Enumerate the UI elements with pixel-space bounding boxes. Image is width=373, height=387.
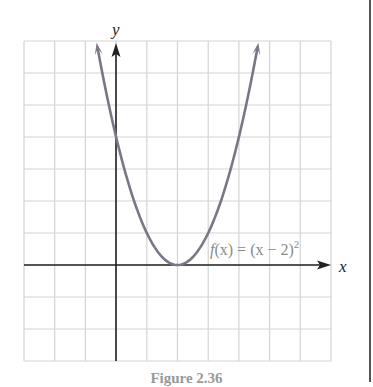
grid (24, 41, 331, 361)
function-expression: (x) = (x − 2) (214, 241, 293, 259)
function-label: f(x) = (x − 2)2 (210, 238, 299, 259)
y-axis-label: y (110, 20, 120, 39)
page-border (369, 0, 371, 382)
figure-caption: Figure 2.36 (0, 370, 373, 387)
function-exponent: 2 (294, 238, 300, 250)
x-axis-label: x (338, 257, 347, 276)
